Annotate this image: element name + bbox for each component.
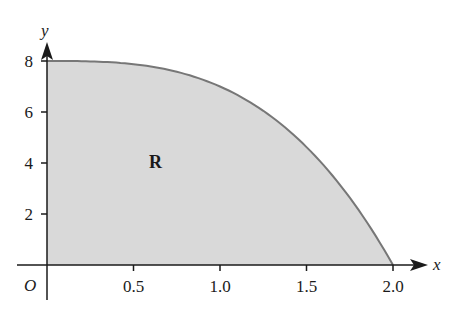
x-axis-label: x	[432, 255, 441, 274]
x-tick-label: 0.5	[123, 277, 144, 296]
x-ticks: 0.51.01.52.0	[123, 265, 404, 296]
region-label: R	[149, 152, 163, 172]
region-diagram: 0.51.01.52.0 2468 x y O R	[0, 0, 461, 314]
y-tick-label: 6	[25, 103, 34, 122]
origin-label: O	[24, 276, 36, 295]
y-ticks: 2468	[25, 52, 48, 224]
y-tick-label: 2	[25, 205, 34, 224]
x-tick-label: 1.0	[209, 277, 230, 296]
y-axis-label: y	[39, 21, 49, 40]
y-tick-label: 8	[25, 52, 34, 71]
x-tick-label: 1.5	[296, 277, 317, 296]
shaded-region-r	[47, 61, 393, 265]
y-tick-label: 4	[25, 154, 34, 173]
x-tick-label: 2.0	[382, 277, 403, 296]
